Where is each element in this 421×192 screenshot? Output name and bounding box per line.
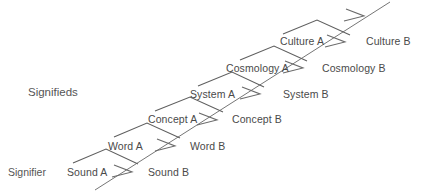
node-system-b: System B [283,88,329,100]
axis-label-signifier: Signifier [8,166,46,179]
node-concept-b: Concept B [232,113,282,125]
arrow-concept-icon [197,113,217,125]
node-cosmology-a: Cosmology A [226,62,289,74]
axis-label-signifieds: Signifieds [28,86,78,99]
arrow-culture-icon [325,35,345,47]
node-system-a: System A [190,88,235,100]
arrow-sound-icon [112,165,132,177]
arrow-system-icon [240,87,260,99]
node-word-b: Word B [190,140,225,152]
arrow-top-icon [344,9,364,21]
semiotic-chain-diagram: Signifieds Signifier Sound A Sound B Wor… [0,0,421,192]
node-concept-a: Concept A [148,113,197,125]
node-sound-a: Sound A [67,166,107,178]
arrow-word-icon [155,139,175,151]
node-cosmology-b: Cosmology B [322,62,386,74]
node-word-a: Word A [108,140,143,152]
node-sound-b: Sound B [148,166,189,178]
node-culture-a: Culture A [280,35,324,47]
node-culture-b: Culture B [366,35,411,47]
